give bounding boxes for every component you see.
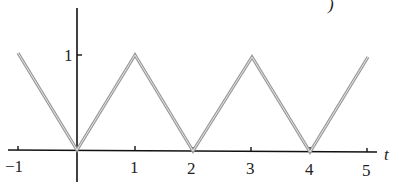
x-tick-label-3: 3 <box>246 159 255 178</box>
x-axis-label: t <box>384 145 390 164</box>
x-tick-label-5: 5 <box>362 161 371 180</box>
x-tick-label-1: 1 <box>130 158 139 177</box>
top-fragment: ) <box>327 0 334 14</box>
x-tick-label-2: 2 <box>187 159 196 178</box>
triangle-wave-line <box>18 53 368 152</box>
x-tick-label-4: 4 <box>305 160 314 179</box>
y-tick-label-1: 1 <box>64 46 73 65</box>
triangle-wave-chart: −1 1 2 3 4 5 1 t ) <box>0 0 393 182</box>
x-tick-label-minus1: −1 <box>5 157 23 176</box>
